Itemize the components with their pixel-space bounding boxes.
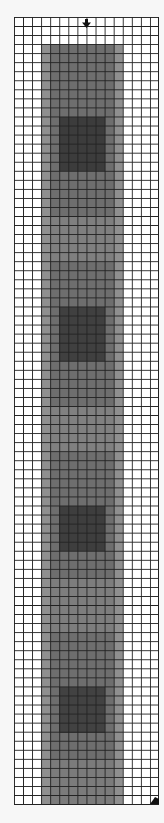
down-arrow-icon[interactable] xyxy=(82,19,91,28)
grid-canvas[interactable] xyxy=(14,17,159,805)
shaded-dark-band xyxy=(59,506,104,551)
shaded-light-band xyxy=(50,760,113,805)
corner-triangle-icon[interactable] xyxy=(150,797,159,804)
shaded-dark-band xyxy=(59,117,104,171)
shaded-dark-band xyxy=(59,307,104,361)
shaded-light-band xyxy=(50,406,113,451)
shaded-light-band xyxy=(50,216,113,261)
shaded-dark-band xyxy=(59,687,104,732)
shaded-light-band xyxy=(50,579,113,633)
